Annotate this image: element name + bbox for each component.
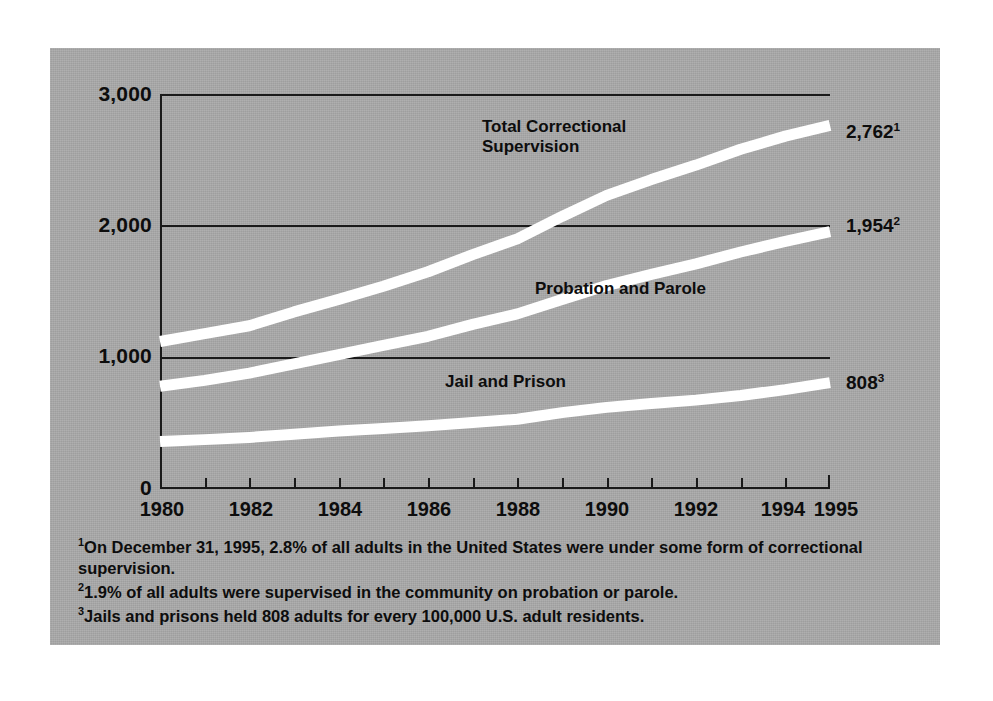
series-label-probation-and-parole: Probation and Parole	[535, 279, 706, 299]
y-tick-label-1000: 1,000	[98, 344, 152, 368]
footnote-text-3: Jails and prisons held 808 adults for ev…	[84, 607, 644, 625]
figure-panel: 3,000 2,000 1,000 0	[50, 48, 940, 645]
plot-area: Total Correctional Supervision Probation…	[160, 94, 830, 489]
footnotes-block: 1On December 31, 1995, 2.8% of all adult…	[78, 535, 918, 628]
x-tick-label-1982: 1982	[229, 498, 274, 521]
y-tick-label-0: 0	[140, 476, 152, 500]
y-tick-label-2000: 2,000	[98, 213, 152, 237]
x-axis-labels: 1980 1982 1984 1986 1988 1990 1992 1994 …	[160, 498, 830, 526]
x-tick-label-1994: 1994	[761, 498, 806, 521]
series-label-total-correctional-supervision: Total Correctional Supervision	[482, 117, 626, 156]
x-tick-label-1980: 1980	[140, 498, 185, 521]
end-label-probation-and-parole: 1,9542	[846, 214, 900, 237]
y-tick-label-3000: 3,000	[98, 82, 152, 106]
end-label-footnote-marker-1: 1	[894, 120, 901, 133]
footnote-2: 21.9% of all adults were supervised in t…	[78, 580, 918, 603]
footnote-text-1: On December 31, 1995, 2.8% of all adults…	[78, 538, 863, 577]
footnote-1: 1On December 31, 1995, 2.8% of all adult…	[78, 535, 918, 579]
series-line-total-correctional-supervision	[160, 125, 830, 341]
x-tick-label-1986: 1986	[407, 498, 452, 521]
footnote-3: 3Jails and prisons held 808 adults for e…	[78, 604, 918, 627]
end-label-footnote-marker-2: 2	[894, 214, 901, 227]
end-label-value-probation: 1,954	[846, 215, 894, 236]
x-tick-label-1992: 1992	[674, 498, 719, 521]
series-label-jail-and-prison: Jail and Prison	[445, 372, 566, 392]
end-label-value-total: 2,762	[846, 121, 894, 142]
footnote-text-2: 1.9% of all adults were supervised in th…	[84, 583, 678, 601]
x-tick-label-1984: 1984	[318, 498, 363, 521]
chart-page: 3,000 2,000 1,000 0	[0, 0, 993, 701]
end-label-jail-and-prison: 8083	[846, 371, 884, 394]
x-tick-label-1995: 1995	[814, 498, 859, 521]
series-line-probation-and-parole	[160, 232, 830, 387]
end-label-total-correctional-supervision: 2,7621	[846, 120, 900, 143]
x-tick-label-1990: 1990	[585, 498, 630, 521]
end-label-value-jail: 808	[846, 372, 878, 393]
x-tick-label-1988: 1988	[496, 498, 541, 521]
end-label-footnote-marker-3: 3	[878, 371, 885, 384]
